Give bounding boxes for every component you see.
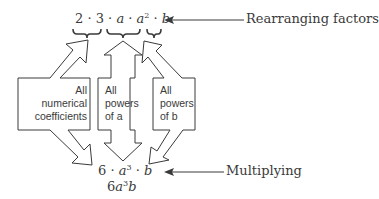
box-coefficients-text: All numerical coefficients bbox=[22, 84, 87, 123]
brace-powers-b bbox=[147, 29, 161, 38]
simplified-var-a: a bbox=[115, 179, 123, 194]
box-powers-a-line-3: of a bbox=[105, 110, 139, 123]
box-powers-a-line-1: All bbox=[105, 84, 139, 97]
brace-powers-a bbox=[107, 29, 140, 38]
box-coefficients-line-1: All bbox=[22, 84, 87, 97]
factor-b: b bbox=[162, 11, 170, 26]
label-multiplying: Multiplying bbox=[226, 163, 302, 178]
brace-coefficients bbox=[73, 29, 101, 38]
product-var-b: b bbox=[144, 163, 152, 178]
box-powers-b-line-3: of b bbox=[160, 110, 194, 123]
label-rearranging-factors: Rearranging factors bbox=[246, 11, 379, 26]
simplified-var-b: b bbox=[128, 179, 136, 194]
product-coefficient: 6 bbox=[98, 163, 106, 178]
box-powers-b-line-1: All bbox=[160, 84, 194, 97]
box-powers-b-text: All powers of b bbox=[160, 84, 194, 123]
factor-a-exponent: 2 bbox=[144, 11, 149, 20]
box-powers-a-line-2: powers bbox=[105, 97, 139, 110]
simplified-expression: 6a3b bbox=[107, 179, 136, 194]
box-powers-a-text: All powers of a bbox=[105, 84, 139, 123]
product-expression: 6 · a3 · b bbox=[98, 163, 152, 178]
box-powers-b-line-2: powers bbox=[160, 97, 194, 110]
box-coefficients-line-3: coefficients bbox=[22, 110, 87, 123]
product-exp-a: 3 bbox=[126, 163, 131, 172]
box-coefficients-line-2: numerical bbox=[22, 97, 87, 110]
factor-3: 3 bbox=[96, 11, 104, 26]
top-expression: 2 · 3 · a · a2 · b bbox=[75, 11, 170, 26]
factor-a: a bbox=[116, 11, 124, 26]
factor-2: 2 bbox=[75, 11, 83, 26]
